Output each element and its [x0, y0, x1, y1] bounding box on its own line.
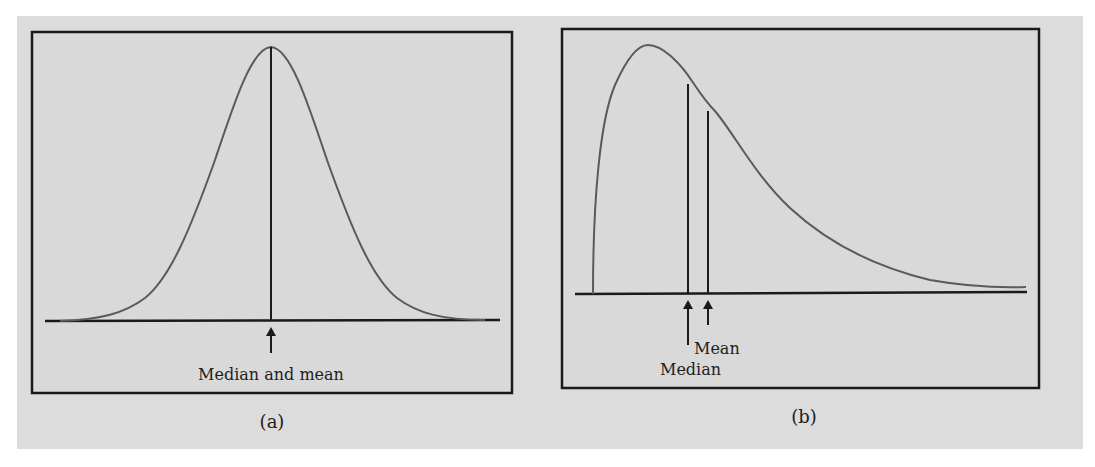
panel-b-median-label: Median: [660, 360, 721, 379]
panel-a: Median and mean (a): [32, 32, 512, 432]
panel-b-mean-label: Mean: [694, 339, 740, 358]
panel-a-annotation-label: Median and mean: [198, 365, 344, 384]
panel-b-frame: [562, 29, 1039, 388]
figure: Median and mean (a) Mean Median (b): [0, 0, 1095, 467]
panel-b: Mean Median (b): [562, 29, 1039, 427]
panel-a-caption: (a): [260, 411, 285, 432]
panel-b-caption: (b): [791, 406, 817, 427]
panel-a-baseline: [45, 320, 500, 321]
